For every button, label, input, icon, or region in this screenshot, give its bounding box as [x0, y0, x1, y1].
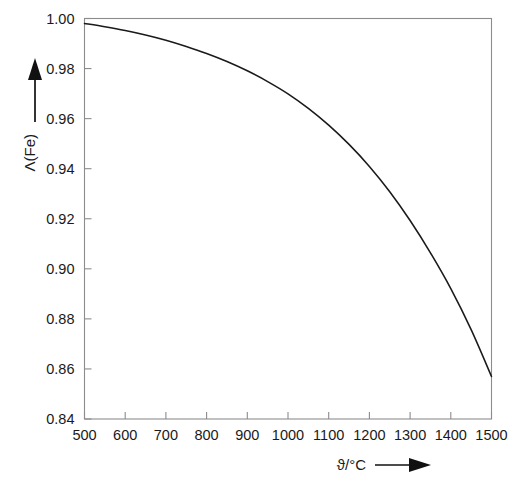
y-tick-label: 0.88 — [46, 311, 74, 327]
x-tick-label: 800 — [194, 427, 218, 443]
chart-background — [0, 0, 517, 495]
y-tick-label: 0.92 — [46, 211, 74, 227]
x-tick-label: 1100 — [313, 427, 344, 443]
y-tick-label: 0.98 — [46, 61, 74, 77]
y-axis-title: Λ(Fe) — [21, 134, 38, 172]
x-tick-label: 500 — [72, 427, 96, 443]
y-tick-label: 0.94 — [46, 161, 74, 177]
chart-figure: 500600700800900100011001200130014001500 … — [0, 0, 517, 495]
x-tick-label: 1400 — [435, 427, 467, 443]
x-tick-label: 1300 — [394, 427, 426, 443]
y-axis-tick-labels: 0.840.860.880.900.920.940.960.981.00 — [46, 11, 74, 428]
line-chart: 500600700800900100011001200130014001500 … — [0, 0, 517, 495]
x-tick-label: 900 — [235, 427, 259, 443]
y-tick-label: 1.00 — [46, 11, 74, 27]
x-tick-label: 1000 — [272, 427, 304, 443]
y-tick-label: 0.84 — [46, 411, 74, 427]
y-tick-label: 0.86 — [46, 361, 74, 377]
x-tick-label: 600 — [113, 427, 137, 443]
x-tick-label: 1500 — [475, 427, 507, 443]
x-axis-title: ϑ/°C — [337, 456, 366, 473]
x-tick-label: 700 — [154, 427, 178, 443]
y-tick-label: 0.96 — [46, 111, 74, 127]
x-tick-label: 1200 — [353, 427, 385, 443]
y-tick-label: 0.90 — [46, 261, 74, 277]
